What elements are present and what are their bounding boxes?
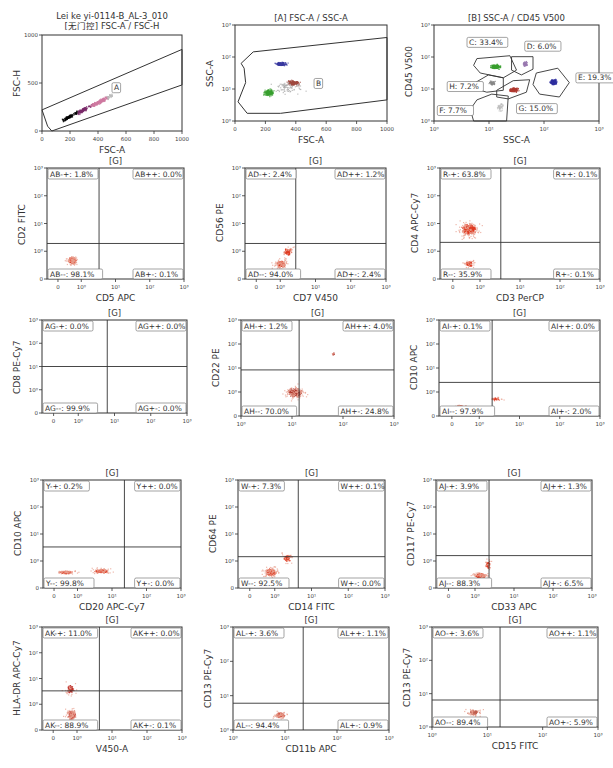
y-tick-label: 10¹ [421,86,430,92]
event-dot [266,567,267,568]
event-dot [112,96,113,97]
event-dot [518,90,519,91]
event-dot [297,383,298,384]
event-dot [291,393,292,394]
x-tick-label: 10³ [587,593,596,599]
x-tick-label: 400 [291,126,302,132]
y-tick-label: 0 [231,585,235,591]
event-dot [275,262,276,263]
plot-svg: 0200400600800100005001000A [0,0,203,160]
event-dot [100,570,101,571]
event-dot [463,222,464,223]
event-dot [461,236,462,237]
y-tick-label: 10² [232,193,241,199]
event-dot [97,104,98,105]
y-tick-label: 0 [36,585,40,591]
y-tick-label: 10⁰ [232,248,242,254]
event-dot [490,81,491,82]
event-dot [462,225,463,226]
event-dot [472,233,473,234]
quadrant-label-ul: AH-+: 1.2% [244,322,288,331]
event-dot [468,264,469,265]
event-dot [497,398,498,399]
y-tick-label: 10² [29,340,38,346]
event-dot [332,354,333,355]
event-dot [285,87,286,88]
event-dot [480,713,481,714]
event-dot [552,80,553,81]
event-dot [286,87,287,88]
event-dot [76,264,77,265]
event-dot [271,84,272,85]
event-dot [494,65,495,66]
event-dot [475,574,476,575]
y-tick-label: 10³ [421,22,430,28]
event-dot [283,87,284,88]
event-dot [462,262,463,263]
event-dot [67,260,68,261]
quadrant-label-ur: AB++: 0.0% [135,170,182,179]
event-dot [280,87,281,88]
y-tick-label: 10² [29,650,38,656]
event-dot [286,392,287,393]
y-tick-label: 10³ [426,317,435,323]
x-tick-label: 800 [149,136,160,142]
y-tick-label: 10³ [423,477,432,483]
event-dot [554,80,555,81]
event-dot [284,390,285,391]
event-dot [487,564,488,565]
event-dot [106,98,107,99]
event-dot [288,89,289,90]
x-tick-label: 10⁰ [470,593,480,599]
gate-label: B [316,79,321,88]
event-dot [481,575,482,576]
event-dot [486,575,487,576]
event-dot [271,567,272,568]
x-tick-label: 0 [450,421,454,427]
event-dot [293,81,294,82]
x-tick-label: 10¹ [111,284,120,290]
event-dots [282,352,334,401]
event-dot [69,692,70,693]
event-dot [294,83,295,84]
event-dot [282,63,283,64]
event-dots [263,62,307,98]
event-dot [462,239,463,240]
event-dot [69,685,70,686]
event-dot [287,714,288,715]
event-dot [284,89,285,90]
event-dot [71,694,72,695]
event-dot [466,232,467,233]
x-tick-label: 10² [145,284,154,290]
plot-svg: 10⁰10¹10²10³010⁰10¹10²10³AH-+: 1.2%AH++:… [203,302,406,462]
event-dot [276,714,277,715]
x-tick-label: 10³ [176,593,185,599]
y-tick-label: 10³ [34,165,43,171]
event-dot [527,64,528,65]
event-dot [72,713,73,714]
quadrant-label-ul: AG-+: 0.0% [45,322,89,331]
event-dot [287,391,288,392]
x-tick-label: 10² [539,126,548,132]
plot-svg: 10⁰10¹10²10³10⁰10¹10²10³AL-+: 3.6%AL++: … [203,607,406,767]
event-dot [265,573,266,574]
event-dot [283,252,284,253]
event-dot [65,573,66,574]
event-dot [267,93,268,94]
y-tick-label: 10¹ [232,221,241,227]
gate-B[interactable] [238,37,387,113]
event-dot [474,234,475,235]
event-dot [291,387,292,388]
event-dot [263,570,264,571]
event-dot [73,688,74,689]
event-dot [283,716,284,717]
event-dot [491,66,492,67]
event-dot [477,712,478,713]
event-dot [468,235,469,236]
y-tick-label: 10⁰ [29,387,39,393]
event-dot [281,261,282,262]
event-dot [463,235,464,236]
event-dot [474,262,475,263]
event-dot [110,572,111,573]
event-dot [499,105,500,106]
